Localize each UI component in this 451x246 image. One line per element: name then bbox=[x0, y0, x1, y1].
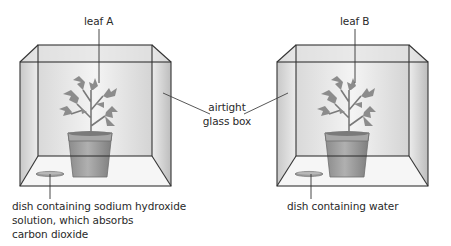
dish-a-label-line2: solution, which absorbs bbox=[12, 214, 133, 227]
dish-b bbox=[295, 171, 323, 176]
leaf-a-label: leaf A bbox=[84, 15, 113, 28]
dish-a-label-line3: carbon dioxide bbox=[12, 228, 88, 241]
dish-a-label-line1: dish containing sodium hydroxide bbox=[12, 200, 186, 213]
leaf-b-label: leaf B bbox=[340, 15, 369, 28]
dish-b-label: dish containing water bbox=[287, 200, 398, 213]
airtight-label-line2: glass box bbox=[199, 115, 255, 128]
airtight-label-line1: airtight bbox=[205, 101, 249, 114]
